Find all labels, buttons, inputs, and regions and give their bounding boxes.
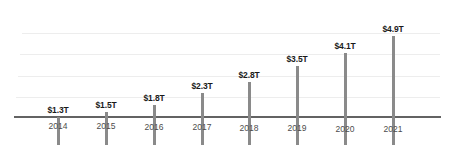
gridline [22, 33, 440, 34]
bar [201, 93, 204, 145]
x-axis-tick-label: 2021 [384, 124, 403, 134]
gridline [20, 54, 440, 55]
x-axis-tick-label: 2015 [97, 121, 116, 131]
bar [248, 82, 251, 145]
x-axis-tick-label: 2017 [193, 122, 212, 132]
bar-value-label: $1.8T [143, 93, 164, 103]
x-axis-tick-label: 2019 [288, 123, 307, 133]
bar-chart: $1.3T $1.5T $1.8T $2.3T $2.8T $3.5T $4.1… [0, 0, 453, 145]
x-axis-line [14, 116, 441, 118]
bar-value-label: $4.1T [334, 41, 355, 51]
bar-value-label: $3.5T [286, 54, 307, 64]
gridline [16, 97, 440, 98]
x-axis-tick-label: 2016 [145, 122, 164, 132]
bar-value-label: $2.8T [238, 70, 259, 80]
bar-value-label: $1.5T [95, 100, 116, 110]
gridline [18, 76, 440, 77]
x-axis-tick-label: 2020 [336, 124, 355, 134]
x-axis-tick-label: 2018 [240, 123, 259, 133]
x-axis-tick-label: 2014 [49, 121, 68, 131]
bar-value-label: $2.3T [191, 81, 212, 91]
bar-value-label: $4.9T [382, 24, 403, 34]
plot-area: $1.3T $1.5T $1.8T $2.3T $2.8T $3.5T $4.1… [0, 0, 453, 145]
bar-value-label: $1.3T [47, 105, 68, 115]
bar [296, 66, 299, 145]
